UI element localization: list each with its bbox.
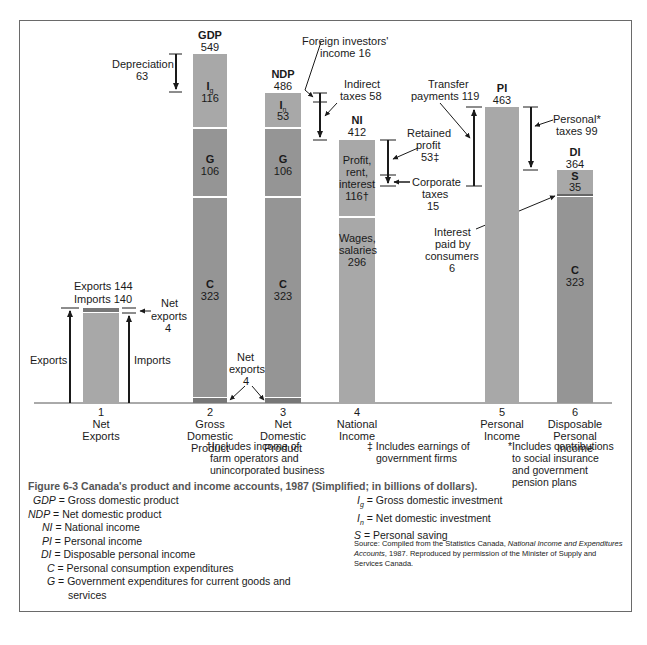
indirect-taxes-label-2: taxes 58 [340, 90, 382, 102]
ndp-net-exports-segment [265, 398, 301, 403]
di-s-segment: S 35 [557, 170, 593, 194]
category-1: 1NetExports [71, 406, 131, 442]
corporate-taxes-label-1: Corporate [412, 176, 461, 188]
ni-heading: NI [339, 114, 375, 126]
ni-profit-segment: Profit, rent, interest 116† [339, 140, 375, 216]
exports-value-label: Exports 144 [74, 280, 133, 292]
ni-total: 412 [339, 126, 375, 138]
foreign-income-label-2: income 16 [320, 47, 371, 59]
ndp-c-segment: C 323 [265, 198, 301, 397]
transfer-payments-label-1: Transfer [428, 78, 469, 90]
footnote-double-dagger: ‡ Includes earnings of government firms [367, 440, 470, 464]
ndp-heading: NDP [265, 68, 301, 80]
category-5: 5PersonalIncome [472, 406, 532, 442]
foreign-income-label-1: Foreign investors' [302, 35, 388, 47]
bar-ndp: In 53 G 106 C 323 [265, 93, 301, 403]
di-c-segment: C 323 [557, 197, 593, 403]
personal-taxes-label-1: Personal* [553, 113, 601, 125]
source-note: Source: Compiled from the Statistics Can… [354, 539, 624, 569]
ni-wages-segment: Wages, salaries 296 [339, 218, 375, 403]
depreciation-label-1: Depreciation [112, 58, 174, 70]
retained-profit-label-2: profit [416, 139, 440, 151]
legend-right: Ig = Gross domestic investment In = Net … [354, 494, 502, 543]
figure-caption: Figure 6-3 Canada's product and income a… [28, 480, 477, 492]
retained-profit-label-3: 53‡ [421, 151, 439, 163]
pi-heading: PI [485, 82, 519, 94]
gdp-c-segment: C 323 [193, 198, 227, 397]
ndp-g-segment: G 106 [265, 129, 301, 196]
bar-di: S 35 C 323 [557, 170, 593, 403]
corporate-taxes-label-2: taxes [422, 188, 448, 200]
depreciation-label-2: 63 [136, 70, 148, 82]
ndp-total: 486 [265, 80, 301, 92]
gdp-net-exports-segment [193, 398, 227, 403]
ndp-in-segment: In 53 [265, 93, 301, 127]
footnote-dagger: †Includes income of farm operators and u… [206, 440, 324, 476]
net-exports-side-label-1: Net [161, 297, 178, 309]
bar-gdp: Ig 116 G 106 C 323 [193, 54, 227, 403]
gdp-g-segment: G 106 [193, 129, 227, 196]
interest-paid-label-3: consumers [425, 250, 479, 262]
legend-left: GDP = Gross domestic product NDP = Net d… [28, 494, 291, 602]
di-heading: DI [557, 146, 593, 158]
gdp-ig-segment: Ig 116 [193, 54, 227, 127]
bar-pi [485, 107, 519, 403]
category-4: 4NationalIncome [327, 406, 387, 442]
transfer-payments-label-2: payments 119 [411, 90, 479, 102]
personal-taxes-label-2: taxes 99 [556, 125, 598, 137]
net-exports-bottom-label-1: Net [237, 351, 254, 363]
exports-arrow-label: Exports [30, 354, 67, 366]
net-exports-bottom-label-2: exports [229, 363, 265, 375]
indirect-taxes-label-1: Indirect [344, 78, 380, 90]
interest-paid-label-4: 6 [449, 262, 455, 274]
net-exports-bottom-label-3: 4 [243, 375, 249, 387]
imports-value-label: Imports 140 [74, 293, 132, 305]
interest-paid-label-2: paid by [435, 238, 470, 250]
bar-ni: Profit, rent, interest 116† Wages, salar… [339, 140, 375, 403]
di-total: 364 [557, 158, 593, 170]
pi-total: 463 [485, 94, 519, 106]
interest-paid-label-1: Interest [434, 226, 471, 238]
retained-profit-label-1: Retained [407, 127, 451, 139]
corporate-taxes-label-3: 15 [427, 200, 439, 212]
gdp-total: 549 [193, 41, 227, 53]
net-exports-side-label-2: exports [151, 310, 187, 322]
net-exports-side-label-3: 4 [165, 322, 171, 334]
gdp-heading: GDP [193, 29, 227, 41]
imports-arrow-label: Imports [134, 354, 171, 366]
footnote-star: *Includes contributions to social insura… [508, 440, 614, 488]
bar-net-exports [83, 308, 119, 403]
